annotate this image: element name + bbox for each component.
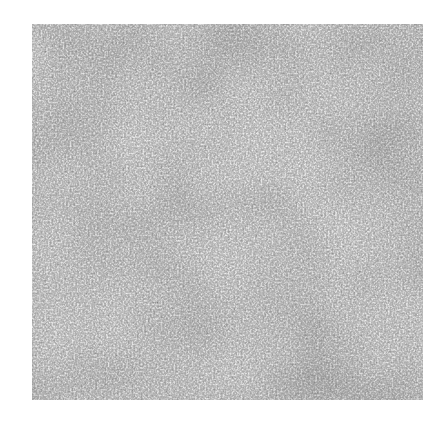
texture-svg xyxy=(32,24,423,400)
texture-fill xyxy=(32,24,423,400)
fiber-network-texture xyxy=(32,24,423,400)
